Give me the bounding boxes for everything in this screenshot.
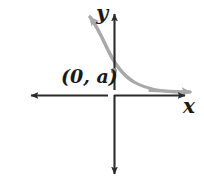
y-axis-label: y xyxy=(96,2,108,23)
exponential-graph-figure: y x (0, a) xyxy=(0,0,204,187)
graph-canvas xyxy=(0,0,204,187)
x-axis-label: x xyxy=(183,96,195,116)
y-intercept-label: (0, a) xyxy=(61,67,118,86)
